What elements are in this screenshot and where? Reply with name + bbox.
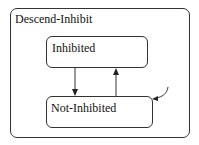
default-transition <box>152 87 168 101</box>
transition-inhibited-to-not-inhibited <box>72 68 78 96</box>
transition-not-inhibited-to-inhibited <box>113 68 119 96</box>
arrowhead-down-icon <box>72 89 78 96</box>
transitions-layer <box>0 0 199 145</box>
arrowhead-default-icon <box>152 96 158 101</box>
arrowhead-up-icon <box>113 68 119 75</box>
